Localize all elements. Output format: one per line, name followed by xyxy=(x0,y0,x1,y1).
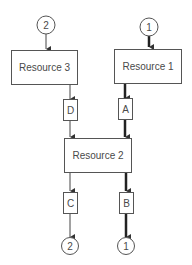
lock-a-box: A xyxy=(119,99,133,120)
lock-d-label: D xyxy=(67,105,74,116)
connector-bottom-right-label: 1 xyxy=(123,241,129,252)
connector-bottom-left-label: 2 xyxy=(67,241,73,252)
connector-top-right-label: 1 xyxy=(146,22,152,33)
connector-top-right: 1 xyxy=(140,18,158,36)
lock-c-box: C xyxy=(64,193,78,214)
connector-bottom-left: 2 xyxy=(62,238,79,255)
lock-d-box: D xyxy=(64,100,78,121)
lock-c-label: C xyxy=(67,198,74,209)
lock-b-label: B xyxy=(123,198,130,209)
resource-2-label: Resource 2 xyxy=(72,150,124,161)
resource-3-label: Resource 3 xyxy=(19,62,71,73)
resource-1-label: Resource 1 xyxy=(122,61,174,72)
connector-bottom-right: 1 xyxy=(118,238,135,255)
flow-diagram: 2 1 Resource 3 Resource 1 D A Resource 2… xyxy=(0,0,192,265)
resource-1-box: Resource 1 xyxy=(115,50,182,84)
connector-top-left: 2 xyxy=(37,16,55,34)
connector-top-left-label: 2 xyxy=(43,20,49,31)
lock-b-box: B xyxy=(120,193,134,214)
lock-a-label: A xyxy=(122,104,129,115)
resource-2-box: Resource 2 xyxy=(65,139,132,173)
resource-3-box: Resource 3 xyxy=(12,51,78,85)
